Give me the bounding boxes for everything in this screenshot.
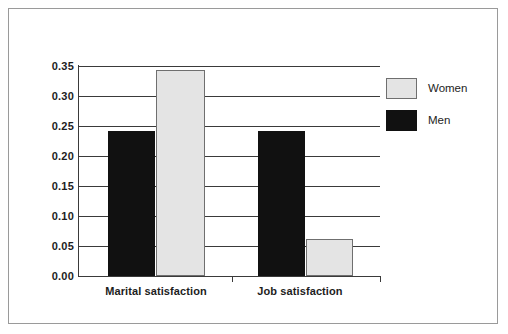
legend-label-women: Women [428, 82, 467, 94]
bar-men-marital-satisfaction [108, 131, 155, 276]
chart-figure: 0.35 0.30 0.25 0.20 0.15 0.10 0.05 0.00 … [0, 0, 508, 334]
y-tick-label: 0.20 [30, 151, 74, 162]
y-tick-label: 0.00 [30, 271, 74, 282]
x-axis-line [78, 276, 381, 277]
y-tick-label: 0.25 [30, 121, 74, 132]
bar-women-job-satisfaction [306, 239, 353, 276]
y-tick-label: 0.35 [30, 61, 74, 72]
y-tick-label: 0.10 [30, 211, 74, 222]
x-category-label-job: Job satisfaction [240, 285, 360, 297]
legend-label-men: Men [428, 114, 450, 126]
y-tick-label: 0.05 [30, 241, 74, 252]
gridline [78, 66, 380, 67]
legend-swatch-men [386, 110, 417, 131]
y-tick-label: 0.15 [30, 181, 74, 192]
legend-swatch-women [386, 78, 417, 99]
x-axis-tick [232, 276, 233, 282]
bar-men-job-satisfaction [258, 131, 305, 276]
x-category-label-marital: Marital satisfaction [86, 285, 226, 297]
gridline [78, 96, 380, 97]
y-tick-label: 0.30 [30, 91, 74, 102]
y-axis-tick-labels: 0.35 0.30 0.25 0.20 0.15 0.10 0.05 0.00 [26, 0, 74, 334]
bar-women-marital-satisfaction [156, 70, 205, 276]
gridline [78, 126, 380, 127]
plot-area [78, 66, 380, 276]
x-axis-tick [380, 276, 381, 282]
